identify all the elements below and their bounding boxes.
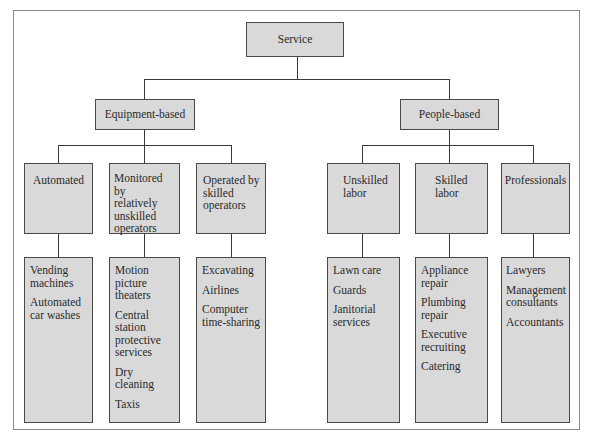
- example-line: car washes: [30, 309, 88, 322]
- example-line: Accountants: [506, 316, 568, 329]
- example-line: machines: [30, 277, 88, 290]
- example-item: Computer time-sharing: [202, 303, 261, 328]
- example-line: Management: [506, 284, 568, 297]
- example-line: Lawn care: [333, 264, 395, 277]
- example-line: Airlines: [202, 284, 261, 297]
- example-item: Motion picture theaters: [115, 264, 175, 302]
- connector-equipment-horizontal: [58, 145, 232, 146]
- example-line: Taxis: [115, 398, 175, 411]
- examples-unskilled-labor: Lawn care Guards Janitorial services: [327, 257, 400, 423]
- example-line: repair: [421, 277, 483, 290]
- node-label-line: relatively: [114, 197, 174, 210]
- node-automated: Automated: [24, 163, 93, 234]
- example-line: cleaning: [115, 378, 175, 391]
- node-people-based-label: People-based: [419, 108, 480, 121]
- node-label-line: labor: [343, 187, 394, 200]
- example-line: consultants: [506, 296, 568, 309]
- connector-professionals-down: [533, 233, 534, 257]
- node-label-line: Unskilled: [343, 174, 394, 187]
- connector-people-up: [449, 79, 450, 99]
- node-professionals: Professionals: [501, 163, 570, 234]
- node-label-line: Operated by: [203, 174, 260, 187]
- example-line: Computer: [202, 303, 261, 316]
- node-label-line: skilled: [203, 187, 260, 200]
- example-item: Airlines: [202, 284, 261, 297]
- example-line: Guards: [333, 284, 395, 297]
- example-item: Excavating: [202, 264, 261, 277]
- node-operated: Operated by skilled operators: [196, 163, 266, 234]
- connector-unskilled-up: [362, 145, 363, 163]
- example-line: Central: [115, 309, 175, 322]
- example-line: Dry: [115, 366, 175, 379]
- node-service-label: Service: [278, 33, 312, 46]
- connector-level1-horizontal: [144, 79, 450, 80]
- example-item: Automated car washes: [30, 296, 88, 321]
- node-service: Service: [246, 22, 344, 57]
- connector-monitored-up: [144, 145, 145, 163]
- node-skilled-labor: Skilled labor: [415, 163, 488, 234]
- example-line: Vending: [30, 264, 88, 277]
- example-line: protective: [115, 334, 175, 347]
- example-line: repair: [421, 309, 483, 322]
- example-line: Appliance: [421, 264, 483, 277]
- example-item: Lawn care: [333, 264, 395, 277]
- connector-skilled-up: [449, 145, 450, 163]
- examples-monitored: Motion picture theaters Central station …: [109, 257, 180, 423]
- connector-monitored-down: [144, 233, 145, 257]
- connector-equipment-up: [144, 79, 145, 99]
- examples-skilled-labor: Appliance repair Plumbing repair Executi…: [415, 257, 488, 423]
- example-item: Janitorial services: [333, 303, 395, 328]
- example-line: theaters: [115, 289, 175, 302]
- node-label-line: labor: [435, 187, 482, 200]
- connector-automated-down: [58, 233, 59, 257]
- example-line: Executive: [421, 328, 483, 341]
- example-item: Dry cleaning: [115, 366, 175, 391]
- example-line: Catering: [421, 360, 483, 373]
- example-item: Management consultants: [506, 284, 568, 309]
- example-item: Lawyers: [506, 264, 568, 277]
- node-label-line: Automated: [28, 174, 89, 187]
- example-line: Motion: [115, 264, 175, 277]
- example-item: Appliance repair: [421, 264, 483, 289]
- node-equipment-based-label: Equipment-based: [105, 108, 185, 121]
- connector-equipment-down: [144, 129, 145, 145]
- node-label-line: Professionals: [504, 174, 567, 187]
- connector-operated-down: [231, 233, 232, 257]
- node-label-line: operators: [114, 222, 174, 235]
- node-label-line: Monitored by: [114, 172, 174, 197]
- node-label-line: operators: [203, 199, 260, 212]
- example-line: Excavating: [202, 264, 261, 277]
- example-item: Vending machines: [30, 264, 88, 289]
- example-line: station: [115, 321, 175, 334]
- node-people-based: People-based: [400, 99, 499, 130]
- connector-root-down: [297, 56, 298, 79]
- example-line: Plumbing: [421, 296, 483, 309]
- connector-operated-up: [231, 145, 232, 163]
- connector-skilled-down: [449, 233, 450, 257]
- example-item: Executive recruiting: [421, 328, 483, 353]
- example-line: Janitorial: [333, 303, 395, 316]
- examples-operated: Excavating Airlines Computer time-sharin…: [196, 257, 266, 423]
- example-line: Automated: [30, 296, 88, 309]
- node-label-line: Skilled: [435, 174, 482, 187]
- connector-unskilled-down: [362, 233, 363, 257]
- examples-automated: Vending machines Automated car washes: [24, 257, 93, 423]
- example-item: Accountants: [506, 316, 568, 329]
- node-equipment-based: Equipment-based: [95, 99, 195, 130]
- node-monitored: Monitored by relatively unskilled operat…: [109, 163, 180, 234]
- example-line: services: [333, 316, 395, 329]
- examples-professionals: Lawyers Management consultants Accountan…: [501, 257, 570, 423]
- connector-people-horizontal: [362, 145, 534, 146]
- example-line: Lawyers: [506, 264, 568, 277]
- node-unskilled-labor: Unskilled labor: [327, 163, 400, 234]
- example-line: picture: [115, 277, 175, 290]
- node-label-line: unskilled: [114, 210, 174, 223]
- example-item: Taxis: [115, 398, 175, 411]
- example-line: recruiting: [421, 341, 483, 354]
- example-item: Guards: [333, 284, 395, 297]
- example-item: Catering: [421, 360, 483, 373]
- example-item: Central station protective services: [115, 309, 175, 359]
- example-line: time-sharing: [202, 316, 261, 329]
- connector-automated-up: [58, 145, 59, 163]
- example-item: Plumbing repair: [421, 296, 483, 321]
